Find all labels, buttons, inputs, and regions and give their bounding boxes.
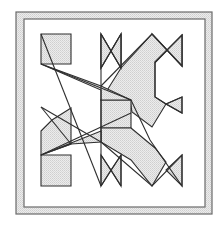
top-left-square	[41, 34, 71, 64]
center-square	[101, 100, 131, 128]
bottom-left-square	[41, 155, 71, 186]
pattern-figure	[0, 0, 224, 227]
